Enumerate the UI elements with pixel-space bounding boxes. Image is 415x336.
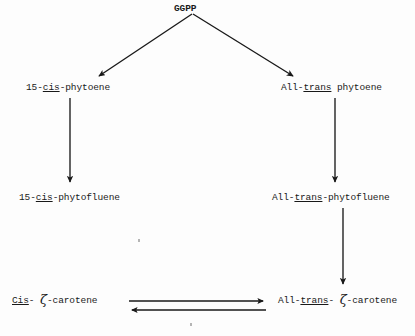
edge-ggpp-to-trans-phytoene <box>193 14 293 76</box>
node-cis-zeta-carotene-mid: - <box>29 295 40 306</box>
node-trans-zeta-carotene-mid: - <box>328 295 339 306</box>
node-trans-phytoene-prefix: All- <box>281 82 303 93</box>
node-cis-phytofluene-suffix: -phytofluene <box>53 192 120 203</box>
node-trans-phytoene-suffix: phytoene <box>331 82 381 93</box>
node-trans-zeta-carotene-prefix: All- <box>278 295 300 306</box>
node-cis-phytofluene-prefix: 15- <box>19 192 36 203</box>
node-cis-phytoene-suffix: -phytoene <box>60 82 110 93</box>
diagram-edges <box>0 0 415 336</box>
zeta-symbol: ζ <box>340 292 347 307</box>
node-cis-zeta-carotene[interactable]: Cis- ζ-carotene <box>12 294 97 307</box>
edge-ggpp-to-cis-phytoene <box>99 14 192 76</box>
node-cis-phytoene-stereo: cis <box>43 82 60 93</box>
node-trans-zeta-carotene-suffix: -carotene <box>347 295 397 306</box>
node-trans-phytofluene-stereo: trans <box>294 192 322 203</box>
node-cis-phytofluene[interactable]: 15-cis-phytofluene <box>19 192 120 204</box>
zeta-symbol: ζ <box>40 292 47 307</box>
node-cis-phytofluene-stereo: cis <box>36 192 53 203</box>
node-trans-zeta-carotene-stereo: trans <box>300 295 328 306</box>
scan-speck <box>190 323 192 326</box>
node-ggpp[interactable]: GGPP <box>174 3 196 15</box>
node-trans-phytofluene-suffix: -phytofluene <box>322 192 389 203</box>
node-ggpp-label: GGPP <box>174 3 196 14</box>
scan-speck <box>138 239 140 242</box>
node-cis-zeta-carotene-stereo: Cis <box>12 295 29 306</box>
node-cis-phytoene-prefix: 15- <box>26 82 43 93</box>
node-trans-phytofluene-prefix: All- <box>272 192 294 203</box>
node-trans-zeta-carotene[interactable]: All-trans- ζ-carotene <box>278 294 397 307</box>
pathway-diagram: GGPP 15-cis-phytoene All-trans phytoene … <box>0 0 415 336</box>
node-trans-phytoene-stereo: trans <box>303 82 331 93</box>
node-trans-phytofluene[interactable]: All-trans-phytofluene <box>272 192 390 204</box>
node-cis-zeta-carotene-suffix: -carotene <box>47 295 97 306</box>
node-cis-phytoene[interactable]: 15-cis-phytoene <box>26 82 110 94</box>
node-trans-phytoene[interactable]: All-trans phytoene <box>281 82 382 94</box>
